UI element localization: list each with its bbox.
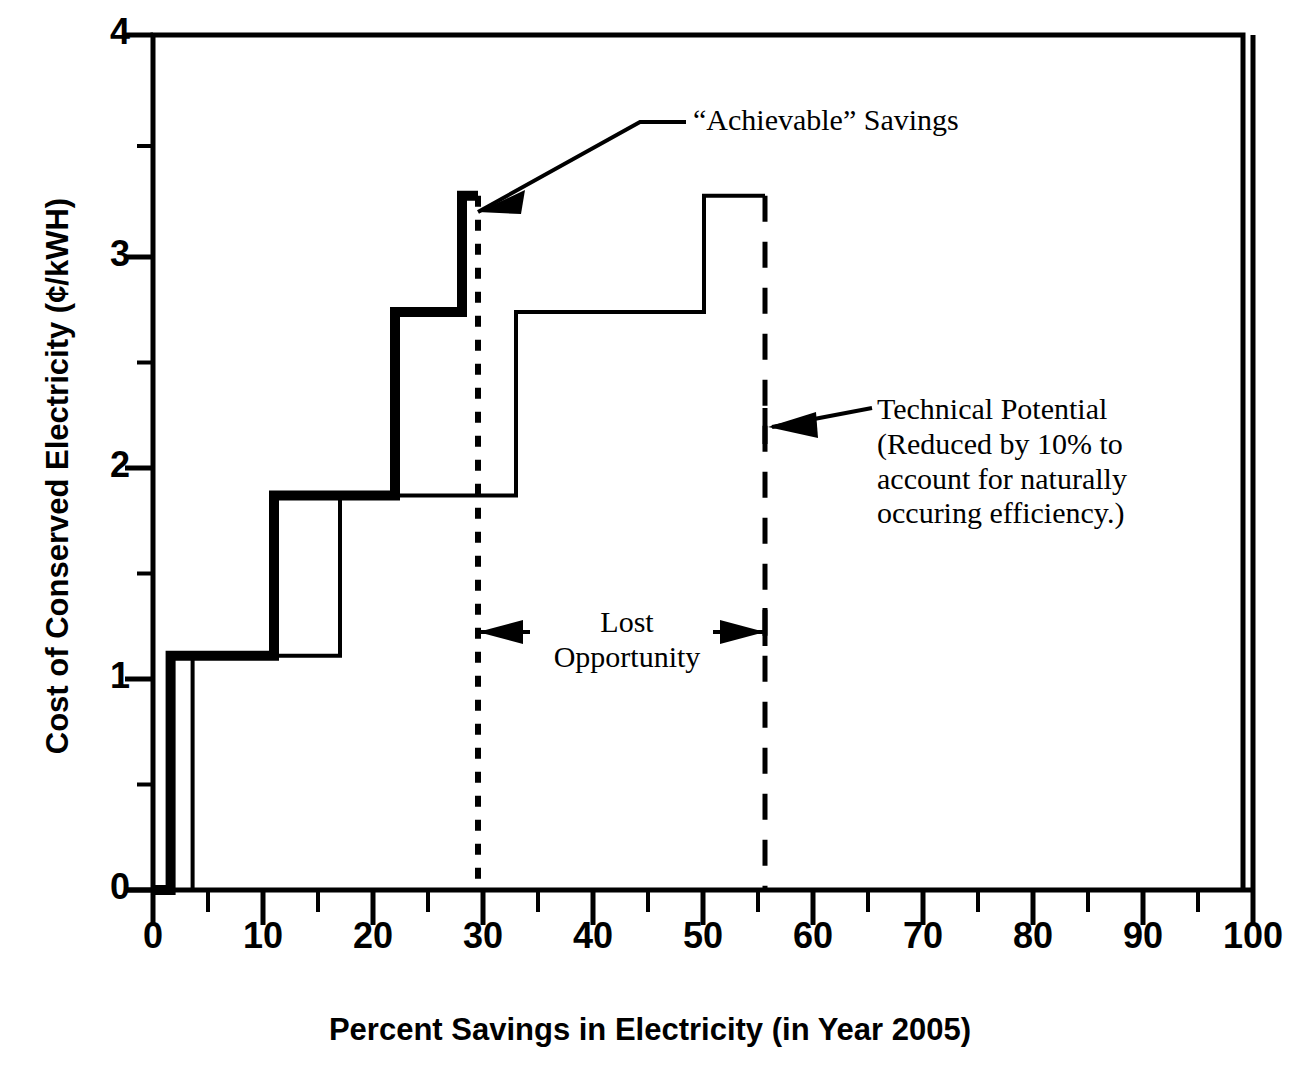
x-tick-label-20: 20: [328, 915, 418, 957]
y-tick-label-4: 4: [60, 11, 130, 53]
annotation-technical-line-4: occuring efficiency.): [877, 496, 1127, 531]
x-tick-label-90: 90: [1098, 915, 1188, 957]
x-tick-label-10: 10: [218, 915, 308, 957]
annotation-technical-potential: Technical Potential (Reduced by 10% to a…: [877, 392, 1127, 531]
annotation-technical-line-1: Technical Potential: [877, 392, 1127, 427]
x-tick-label-40: 40: [548, 915, 638, 957]
x-tick-label-100: 100: [1208, 915, 1298, 957]
chart-figure: Cost of Conserved Electricity (¢/kWH) Pe…: [0, 0, 1300, 1082]
x-tick-label-50: 50: [658, 915, 748, 957]
x-tick-label-0: 0: [108, 915, 198, 957]
x-tick-label-30: 30: [438, 915, 528, 957]
y-tick-label-2: 2: [60, 444, 130, 486]
annotation-lost-line-1: Lost: [533, 605, 721, 640]
annotation-technical-line-2: (Reduced by 10% to: [877, 427, 1127, 462]
y-tick-label-3: 3: [60, 233, 130, 275]
annotation-achievable-savings: “Achievable” Savings: [693, 103, 959, 138]
annotation-lost-opportunity: Lost Opportunity: [533, 605, 721, 675]
x-tick-label-80: 80: [988, 915, 1078, 957]
annotation-technical-line-3: account for naturally: [877, 462, 1127, 497]
series-achievable-savings: [153, 196, 478, 890]
x-tick-label-70: 70: [878, 915, 968, 957]
annotation-lost-line-2: Opportunity: [533, 640, 721, 675]
y-tick-label-0: 0: [60, 866, 130, 908]
x-axis-title: Percent Savings in Electricity (in Year …: [0, 1012, 1300, 1048]
technical-potential-leader: [765, 408, 872, 444]
y-tick-label-1: 1: [60, 655, 130, 697]
achievable-savings-leader: [478, 122, 686, 214]
x-tick-label-60: 60: [768, 915, 858, 957]
